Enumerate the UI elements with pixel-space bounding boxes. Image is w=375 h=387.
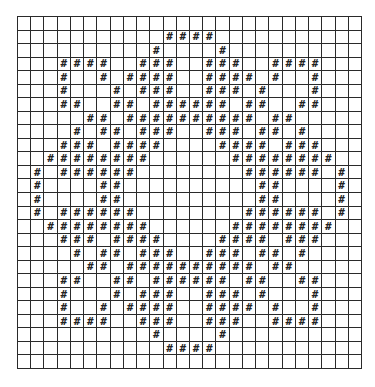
grid-cell-r4-c12[interactable] — [177, 71, 190, 85]
grid-cell-r7-c11[interactable]: # — [164, 112, 177, 126]
grid-cell-r11-c19[interactable]: # — [269, 166, 282, 180]
grid-cell-r22-c25[interactable] — [349, 315, 362, 329]
grid-cell-r25-c18[interactable] — [256, 355, 269, 369]
grid-cell-r20-c5[interactable] — [84, 288, 97, 302]
grid-cell-r9-c2[interactable] — [44, 139, 57, 153]
grid-cell-r13-c1[interactable]: # — [31, 193, 44, 207]
grid-cell-r20-c8[interactable] — [124, 288, 137, 302]
grid-cell-r5-c15[interactable]: # — [216, 85, 229, 99]
grid-cell-r20-c14[interactable]: # — [203, 288, 216, 302]
grid-cell-r22-c10[interactable]: # — [150, 315, 163, 329]
grid-cell-r21-c12[interactable] — [177, 301, 190, 315]
grid-cell-r9-c8[interactable]: # — [124, 139, 137, 153]
grid-cell-r3-c10[interactable]: # — [150, 58, 163, 72]
grid-cell-r2-c2[interactable] — [44, 44, 57, 58]
grid-cell-r21-c18[interactable] — [256, 301, 269, 315]
grid-cell-r12-c23[interactable] — [322, 179, 335, 193]
grid-cell-r15-c13[interactable] — [190, 220, 203, 234]
grid-cell-r12-c17[interactable] — [243, 179, 256, 193]
grid-cell-r17-c11[interactable]: # — [164, 247, 177, 261]
grid-cell-r10-c15[interactable] — [216, 152, 229, 166]
grid-cell-r15-c0[interactable] — [18, 220, 31, 234]
grid-cell-r25-c21[interactable] — [296, 355, 309, 369]
grid-cell-r5-c19[interactable] — [269, 85, 282, 99]
grid-cell-r5-c21[interactable] — [296, 85, 309, 99]
grid-cell-r23-c10[interactable]: # — [150, 328, 163, 342]
grid-cell-r9-c21[interactable]: # — [296, 139, 309, 153]
grid-cell-r12-c12[interactable] — [177, 179, 190, 193]
grid-cell-r0-c15[interactable] — [216, 17, 229, 31]
grid-cell-r6-c3[interactable]: # — [58, 98, 71, 112]
grid-cell-r1-c0[interactable] — [18, 31, 31, 45]
grid-cell-r5-c18[interactable]: # — [256, 85, 269, 99]
grid-cell-r9-c6[interactable] — [97, 139, 110, 153]
grid-cell-r11-c9[interactable] — [137, 166, 150, 180]
grid-cell-r7-c2[interactable] — [44, 112, 57, 126]
grid-cell-r12-c11[interactable] — [164, 179, 177, 193]
grid-cell-r9-c20[interactable]: # — [283, 139, 296, 153]
grid-cell-r9-c14[interactable] — [203, 139, 216, 153]
grid-cell-r21-c5[interactable] — [84, 301, 97, 315]
grid-cell-r16-c9[interactable]: # — [137, 234, 150, 248]
grid-cell-r2-c25[interactable] — [349, 44, 362, 58]
grid-cell-r12-c25[interactable] — [349, 179, 362, 193]
grid-cell-r24-c16[interactable] — [230, 342, 243, 356]
grid-cell-r13-c13[interactable] — [190, 193, 203, 207]
grid-cell-r16-c15[interactable]: # — [216, 234, 229, 248]
grid-cell-r0-c19[interactable] — [269, 17, 282, 31]
grid-cell-r21-c4[interactable] — [71, 301, 84, 315]
grid-cell-r11-c15[interactable] — [216, 166, 229, 180]
grid-cell-r0-c6[interactable] — [97, 17, 110, 31]
grid-cell-r20-c22[interactable]: # — [309, 288, 322, 302]
grid-cell-r20-c4[interactable] — [71, 288, 84, 302]
grid-cell-r21-c0[interactable] — [18, 301, 31, 315]
grid-cell-r8-c15[interactable]: # — [216, 125, 229, 139]
grid-cell-r23-c20[interactable] — [283, 328, 296, 342]
grid-cell-r17-c10[interactable]: # — [150, 247, 163, 261]
grid-cell-r11-c11[interactable] — [164, 166, 177, 180]
grid-cell-r13-c2[interactable] — [44, 193, 57, 207]
grid-cell-r24-c17[interactable] — [243, 342, 256, 356]
grid-cell-r6-c6[interactable] — [97, 98, 110, 112]
grid-cell-r9-c16[interactable]: # — [230, 139, 243, 153]
grid-cell-r14-c14[interactable] — [203, 207, 216, 221]
grid-cell-r6-c1[interactable] — [31, 98, 44, 112]
grid-cell-r2-c3[interactable] — [58, 44, 71, 58]
grid-cell-r10-c17[interactable]: # — [243, 152, 256, 166]
grid-cell-r4-c15[interactable]: # — [216, 71, 229, 85]
grid-cell-r20-c6[interactable] — [97, 288, 110, 302]
grid-cell-r11-c4[interactable]: # — [71, 166, 84, 180]
grid-cell-r3-c7[interactable] — [111, 58, 124, 72]
grid-cell-r14-c8[interactable]: # — [124, 207, 137, 221]
grid-cell-r15-c6[interactable]: # — [97, 220, 110, 234]
grid-cell-r9-c9[interactable]: # — [137, 139, 150, 153]
grid-cell-r1-c20[interactable] — [283, 31, 296, 45]
grid-cell-r14-c1[interactable]: # — [31, 207, 44, 221]
grid-cell-r0-c14[interactable] — [203, 17, 216, 31]
grid-cell-r17-c17[interactable] — [243, 247, 256, 261]
grid-cell-r21-c15[interactable]: # — [216, 301, 229, 315]
grid-cell-r24-c10[interactable] — [150, 342, 163, 356]
grid-cell-r13-c7[interactable]: # — [111, 193, 124, 207]
grid-cell-r15-c3[interactable]: # — [58, 220, 71, 234]
grid-cell-r11-c3[interactable]: # — [58, 166, 71, 180]
grid-cell-r4-c13[interactable] — [190, 71, 203, 85]
grid-cell-r15-c9[interactable]: # — [137, 220, 150, 234]
grid-cell-r0-c20[interactable] — [283, 17, 296, 31]
grid-cell-r8-c21[interactable]: # — [296, 125, 309, 139]
grid-cell-r6-c23[interactable] — [322, 98, 335, 112]
grid-cell-r1-c24[interactable] — [336, 31, 349, 45]
grid-cell-r23-c19[interactable] — [269, 328, 282, 342]
grid-cell-r6-c24[interactable] — [336, 98, 349, 112]
grid-cell-r23-c6[interactable] — [97, 328, 110, 342]
grid-cell-r15-c21[interactable]: # — [296, 220, 309, 234]
grid-cell-r24-c2[interactable] — [44, 342, 57, 356]
grid-cell-r9-c13[interactable] — [190, 139, 203, 153]
grid-cell-r7-c7[interactable] — [111, 112, 124, 126]
grid-cell-r15-c15[interactable] — [216, 220, 229, 234]
grid-cell-r19-c4[interactable]: # — [71, 274, 84, 288]
grid-cell-r25-c2[interactable] — [44, 355, 57, 369]
grid-cell-r23-c7[interactable] — [111, 328, 124, 342]
grid-cell-r0-c12[interactable] — [177, 17, 190, 31]
grid-cell-r12-c7[interactable]: # — [111, 179, 124, 193]
